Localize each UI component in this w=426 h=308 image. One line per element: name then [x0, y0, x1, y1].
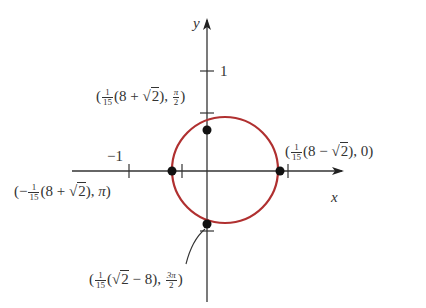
radicand: 2: [120, 270, 129, 287]
x-axis-label: x: [331, 190, 338, 205]
point-top: [203, 126, 212, 135]
leader-line: [186, 229, 205, 264]
label-text: (−: [14, 183, 27, 199]
fraction: 3π2: [166, 271, 177, 290]
point-label-bottom: (115(√2 − 8), 3π2): [89, 271, 183, 290]
radicand: 2: [151, 87, 160, 104]
label-text: ): [106, 183, 111, 199]
point-label-top: (115(8 + √2), π2): [96, 88, 185, 107]
label-text: ),: [86, 183, 99, 199]
denominator: 15: [95, 281, 106, 290]
label-text: (: [285, 143, 290, 159]
denominator: 15: [291, 153, 302, 162]
radicand: 2: [77, 182, 86, 199]
angle: π: [98, 183, 106, 199]
label-text: (8 +: [114, 88, 142, 104]
label-text: (: [107, 271, 112, 287]
denominator: 15: [28, 193, 39, 202]
label-text: ), 0): [348, 143, 373, 159]
label-text: ): [178, 271, 183, 287]
fraction: 115: [28, 183, 39, 202]
x-tick-label-neg-one: −1: [107, 149, 123, 164]
denominator: 15: [102, 98, 113, 107]
circle-curve: [172, 117, 278, 223]
radicand: 2: [340, 142, 349, 159]
denominator: 2: [173, 98, 180, 107]
point-label-right: (115(8 − √2), 0): [285, 143, 373, 162]
label-text: (8 −: [303, 143, 331, 159]
label-text: (: [89, 271, 94, 287]
denominator: 2: [166, 281, 177, 290]
point-right: [276, 167, 285, 176]
fraction: 115: [95, 271, 106, 290]
point-label-left: (−115(8 + √2), π): [14, 183, 111, 202]
label-text: ),: [159, 88, 172, 104]
fraction: 115: [102, 88, 113, 107]
label-text: (8 +: [40, 183, 68, 199]
y-axis-label: y: [193, 16, 200, 31]
point-bottom: [203, 220, 212, 229]
label-text: ): [180, 88, 185, 104]
fraction: π2: [173, 88, 180, 107]
point-left: [168, 167, 177, 176]
label-text: (: [96, 88, 101, 104]
label-text: − 8),: [129, 271, 165, 287]
y-tick-label-one: 1: [220, 64, 228, 79]
fraction: 115: [291, 143, 302, 162]
